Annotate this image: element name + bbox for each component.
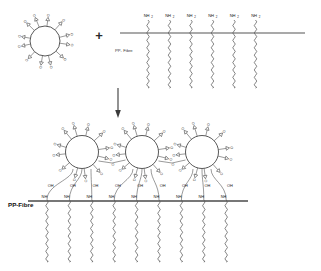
amine-label: NH — [187, 13, 193, 18]
amine-link-label: NH — [64, 194, 70, 199]
hydroxyl-label: OH — [182, 183, 188, 188]
reaction-scheme-diagram: OOOOOOOOOOOO + NH2NH2NH2NH2NH2NH2 PP- Fi… — [0, 0, 321, 271]
amine-label: NH — [165, 13, 171, 18]
hydroxyl-label: OH — [227, 183, 233, 188]
bridge-oxygen-label: O — [172, 163, 175, 167]
hydroxyl-label: OH — [115, 183, 121, 188]
amine-link-label: NH — [176, 194, 182, 199]
amine-link-label: NH — [42, 194, 48, 199]
amine-label: NH — [251, 13, 257, 18]
hydroxyl-label: OH — [160, 183, 166, 188]
amine-link-label: NH — [221, 194, 227, 199]
amine-link-label: NH — [131, 194, 137, 199]
fibre-top-label: PP- Fibre — [115, 48, 133, 53]
hydroxyl-label: OH — [204, 183, 210, 188]
hydroxyl-label: OH — [92, 183, 98, 188]
fibre-bottom-label: PP-Fibre — [8, 201, 34, 208]
hydroxyl-label: OH — [137, 183, 143, 188]
hydroxyl-label: OH — [70, 183, 76, 188]
amine-link-label: NH — [109, 194, 115, 199]
amine-label: NH — [230, 13, 236, 18]
amine-link-label: NH — [198, 194, 204, 199]
amine-link-label: NH — [154, 194, 160, 199]
amine-label: NH — [144, 13, 150, 18]
amine-label: NH — [208, 13, 214, 18]
plus-sign: + — [95, 28, 103, 43]
hydroxyl-label: OH — [48, 183, 54, 188]
bridge-oxygen-label: O — [112, 163, 115, 167]
amine-link-label: NH — [86, 194, 92, 199]
